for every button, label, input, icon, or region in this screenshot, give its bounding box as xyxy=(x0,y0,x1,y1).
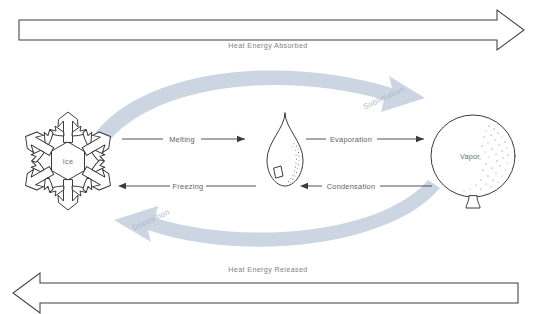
evaporation-label: Evaporation xyxy=(330,135,372,144)
heat-released-label: Heat Energy Released xyxy=(228,265,307,274)
heat-absorbed-label: Heat Energy Absorbed xyxy=(228,41,307,50)
balloon-icon xyxy=(431,115,515,208)
diagram-canvas: Heat Energy Absorbed Heat Energy Release… xyxy=(0,0,537,314)
vapor-label: Vapor xyxy=(460,152,480,161)
phase-change-diagram: Heat Energy Absorbed Heat Energy Release… xyxy=(0,0,537,314)
condensation-label: Condensation xyxy=(327,182,376,191)
water-droplet-icon xyxy=(267,113,303,186)
melting-label: Melting xyxy=(169,135,195,144)
heat-released-arrow xyxy=(13,273,518,313)
ice-label: Ice xyxy=(63,157,74,166)
freezing-label: Freezing xyxy=(173,182,204,191)
